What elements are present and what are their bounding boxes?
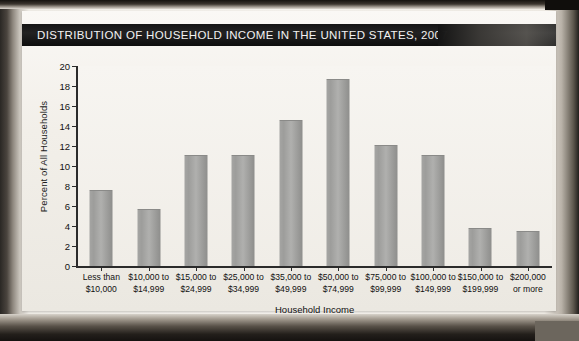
y-axis-tick-mark bbox=[72, 166, 76, 167]
bar[interactable] bbox=[90, 190, 113, 266]
bar-slot bbox=[362, 66, 409, 266]
page-edge-bottom-right bbox=[535, 321, 579, 341]
y-axis-tick-mark bbox=[72, 66, 76, 67]
x-axis-tick-mark bbox=[244, 268, 245, 271]
y-axis-tick-label: 8 bbox=[44, 181, 70, 192]
bar-slot bbox=[457, 66, 504, 266]
bar-slot bbox=[267, 66, 314, 266]
y-axis-tick-mark bbox=[72, 126, 76, 127]
x-axis-tick-labels: Less than$10,000$10,000 to$14,999$15,000… bbox=[78, 272, 552, 302]
x-axis-tick-mark bbox=[433, 268, 434, 271]
y-axis-tick-label: 18 bbox=[44, 81, 70, 92]
y-axis-tick-label: 16 bbox=[44, 101, 70, 112]
x-axis-tick-mark bbox=[101, 268, 102, 271]
x-axis-tick-mark bbox=[528, 268, 529, 271]
x-axis-tick-label-line: or more bbox=[498, 284, 557, 296]
x-axis-tick-mark bbox=[291, 268, 292, 271]
x-axis-tick-mark bbox=[338, 268, 339, 271]
bar[interactable] bbox=[374, 145, 397, 266]
page-edge-top bbox=[0, 0, 579, 9]
bar[interactable] bbox=[327, 79, 350, 266]
bar[interactable] bbox=[279, 120, 302, 266]
plot-area bbox=[78, 66, 552, 266]
chart-canvas: Percent of All Households 02468101214161… bbox=[22, 46, 556, 311]
y-axis-tick-mark bbox=[72, 106, 76, 107]
y-axis-tick-label: 12 bbox=[44, 141, 70, 152]
y-axis-tick-label: 6 bbox=[44, 201, 70, 212]
bar[interactable] bbox=[469, 228, 492, 266]
y-axis-tick-mark bbox=[72, 246, 76, 247]
bar[interactable] bbox=[137, 209, 160, 266]
bar[interactable] bbox=[422, 155, 445, 266]
bar[interactable] bbox=[516, 231, 539, 266]
x-axis-tick-mark bbox=[149, 268, 150, 271]
y-axis-tick-mark bbox=[72, 86, 76, 87]
figure-sheet: DISTRIBUTION OF HOUSEHOLD INCOME IN THE … bbox=[22, 11, 556, 311]
y-axis-tick-labels: 02468101214161820 bbox=[44, 66, 70, 266]
page-edge-top-right bbox=[545, 0, 579, 10]
banner-fade bbox=[438, 24, 556, 46]
bar-slot bbox=[315, 66, 362, 266]
y-axis-tick-label: 2 bbox=[44, 241, 70, 252]
y-axis-tick-label: 20 bbox=[44, 61, 70, 72]
x-axis-tick-mark bbox=[481, 268, 482, 271]
bar-slot bbox=[125, 66, 172, 266]
y-axis-tick-label: 4 bbox=[44, 221, 70, 232]
y-axis-tick-mark bbox=[72, 146, 76, 147]
bar-slot bbox=[172, 66, 219, 266]
y-axis-tick-mark bbox=[72, 206, 76, 207]
bar-slot bbox=[409, 66, 456, 266]
x-axis-tick-label-line: $200,000 bbox=[498, 272, 557, 284]
bar[interactable] bbox=[185, 155, 208, 266]
x-axis-tick-label: $200,000or more bbox=[498, 272, 557, 295]
bar-slot bbox=[78, 66, 125, 266]
y-axis-tick-label: 10 bbox=[44, 161, 70, 172]
bar[interactable] bbox=[232, 155, 255, 266]
chart-title-banner: DISTRIBUTION OF HOUSEHOLD INCOME IN THE … bbox=[22, 24, 556, 46]
scanned-page-background: DISTRIBUTION OF HOUSEHOLD INCOME IN THE … bbox=[0, 0, 579, 341]
x-axis-tick-mark bbox=[196, 268, 197, 271]
y-axis-tick-mark bbox=[72, 266, 76, 267]
y-axis-tick-label: 14 bbox=[44, 121, 70, 132]
page-edge-bottom bbox=[0, 314, 579, 341]
chart-title: DISTRIBUTION OF HOUSEHOLD INCOME IN THE … bbox=[22, 29, 448, 41]
y-axis-tick-label: 0 bbox=[44, 261, 70, 272]
bar-slot bbox=[220, 66, 267, 266]
y-axis-tick-mark bbox=[72, 226, 76, 227]
x-axis-tick-mark bbox=[386, 268, 387, 271]
y-axis-tick-mark bbox=[72, 186, 76, 187]
bar-slot bbox=[504, 66, 551, 266]
